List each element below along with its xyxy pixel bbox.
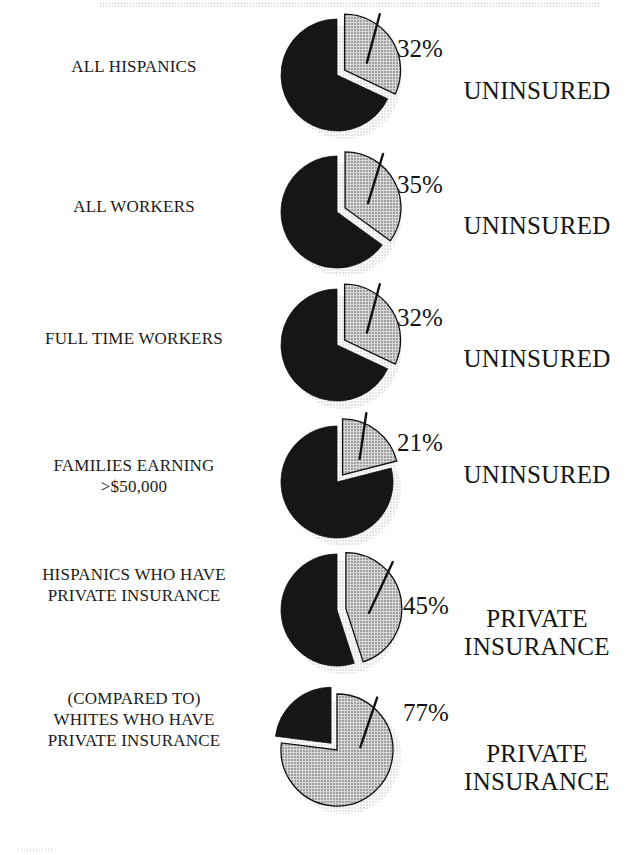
chart-category-label-line: PRIVATE INSURANCE (8, 585, 260, 606)
chart-category-label: ALL HISPANICS (8, 56, 260, 77)
chart-category-label: ALL WORKERS (8, 196, 260, 217)
chart-series-name-label: PRIVATEINSURANCE (430, 605, 644, 661)
chart-category-label-line: WHITES WHO HAVE (8, 709, 260, 730)
chart-series-name-line: UNINSURED (430, 212, 644, 240)
chart-series-name-label: UNINSURED (430, 345, 644, 373)
chart-category-label-line: FAMILIES EARNING (8, 455, 260, 476)
chart-series-name-line: UNINSURED (430, 77, 644, 105)
pie-chart (255, 540, 445, 690)
chart-series-name-label: UNINSURED (430, 212, 644, 240)
chart-series-name-line: INSURANCE (430, 768, 644, 796)
pie-chart (255, 8, 445, 158)
chart-series-name-line: UNINSURED (430, 461, 644, 489)
pie-chart (255, 405, 445, 555)
chart-series-name-label: UNINSURED (430, 77, 644, 105)
chart-category-label-line: ALL HISPANICS (8, 56, 260, 77)
chart-category-label-line: HISPANICS WHO HAVE (8, 564, 260, 585)
top-halftone-band (100, 2, 600, 7)
pie-chart (255, 672, 445, 822)
chart-series-name-line: PRIVATE (430, 605, 644, 633)
chart-series-name-line: UNINSURED (430, 345, 644, 373)
chart-series-name-label: PRIVATEINSURANCE (430, 740, 644, 796)
chart-series-name-line: INSURANCE (430, 633, 644, 661)
chart-category-label: FULL TIME WORKERS (8, 328, 260, 349)
chart-category-label: FAMILIES EARNING>$50,000 (8, 455, 260, 497)
bottom-halftone-speck (18, 848, 52, 852)
chart-category-label-line: FULL TIME WORKERS (8, 328, 260, 349)
pie-chart (255, 272, 445, 422)
chart-series-name-line: PRIVATE (430, 740, 644, 768)
pie-slice-remainder (275, 687, 331, 743)
chart-series-name-label: UNINSURED (430, 461, 644, 489)
chart-category-label-line: ALL WORKERS (8, 196, 260, 217)
pie-chart (255, 140, 445, 290)
chart-category-label-line: >$50,000 (8, 476, 260, 497)
chart-category-label-line: PRIVATE INSURANCE (8, 730, 260, 751)
chart-category-label: (COMPARED TO)WHITES WHO HAVEPRIVATE INSU… (8, 688, 260, 751)
chart-category-label: HISPANICS WHO HAVEPRIVATE INSURANCE (8, 564, 260, 606)
chart-category-label-line: (COMPARED TO) (8, 688, 260, 709)
